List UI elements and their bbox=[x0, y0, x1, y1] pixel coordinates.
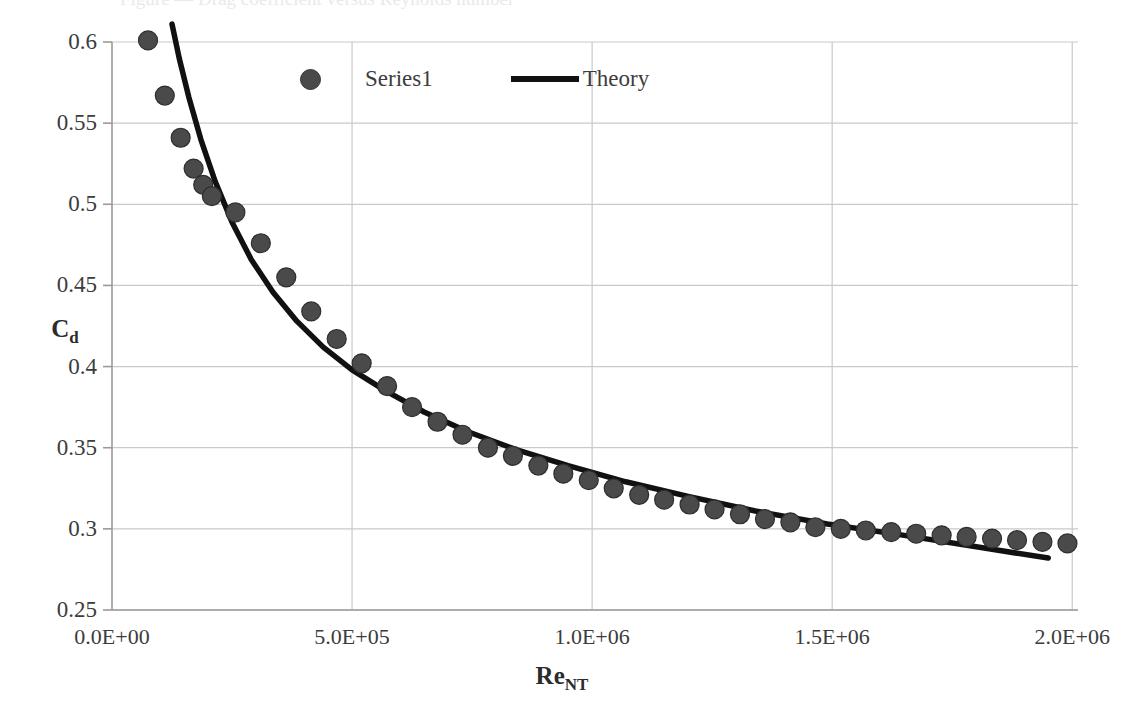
data-point-marker bbox=[155, 86, 174, 105]
data-point-marker bbox=[806, 518, 825, 537]
x-axis-title-subscript: NT bbox=[565, 675, 589, 694]
y-axis-tick-label: 0.3 bbox=[17, 516, 97, 542]
chart-legend: Series1 Theory bbox=[300, 62, 649, 96]
y-axis-title: Cd bbox=[30, 315, 100, 348]
legend-circle-marker-icon bbox=[300, 69, 321, 90]
theory-curve bbox=[172, 24, 1048, 558]
data-point-marker bbox=[831, 519, 850, 538]
data-point-marker bbox=[277, 268, 296, 287]
x-axis-tick-label: 2.0E+06 bbox=[992, 624, 1124, 650]
x-axis-title: ReNT bbox=[0, 662, 1124, 695]
y-axis-title-main: C bbox=[51, 315, 69, 342]
legend-entry-series1: Series1 bbox=[300, 66, 433, 92]
data-point-marker bbox=[226, 203, 245, 222]
data-point-marker bbox=[957, 527, 976, 546]
data-point-marker bbox=[579, 471, 598, 490]
x-axis-title-main: Re bbox=[536, 662, 565, 689]
data-point-marker bbox=[403, 398, 422, 417]
data-point-marker bbox=[983, 529, 1002, 548]
legend-label-series1: Series1 bbox=[365, 66, 433, 92]
data-point-marker bbox=[171, 128, 190, 147]
data-point-marker bbox=[327, 329, 346, 348]
x-axis-tick-label: 5.0E+05 bbox=[272, 624, 432, 650]
y-axis-tick-label: 0.25 bbox=[17, 597, 97, 623]
y-axis-tick-label: 0.4 bbox=[17, 354, 97, 380]
y-axis-tick-label: 0.5 bbox=[17, 191, 97, 217]
data-point-marker bbox=[907, 524, 926, 543]
data-point-marker bbox=[251, 234, 270, 253]
y-axis-tick-label: 0.55 bbox=[17, 110, 97, 136]
data-point-marker bbox=[731, 505, 750, 524]
data-point-marker bbox=[781, 513, 800, 532]
y-axis-tick-label: 0.35 bbox=[17, 435, 97, 461]
data-point-marker bbox=[453, 425, 472, 444]
gridlines bbox=[112, 42, 1078, 610]
data-point-marker bbox=[428, 412, 447, 431]
data-point-marker bbox=[302, 302, 321, 321]
data-point-marker bbox=[1008, 531, 1027, 550]
data-point-marker bbox=[478, 438, 497, 457]
y-axis-tick-label: 0.45 bbox=[17, 272, 97, 298]
data-point-marker bbox=[680, 495, 699, 514]
chart-plot-svg bbox=[0, 0, 1124, 718]
data-point-marker bbox=[755, 510, 774, 529]
data-point-marker bbox=[554, 464, 573, 483]
data-point-marker bbox=[630, 485, 649, 504]
data-point-marker bbox=[932, 526, 951, 545]
data-point-marker bbox=[1033, 532, 1052, 551]
legend-line-marker-icon bbox=[511, 76, 579, 82]
data-point-marker bbox=[352, 354, 371, 373]
data-point-marker bbox=[503, 446, 522, 465]
legend-entry-theory: Theory bbox=[511, 66, 649, 92]
data-point-marker bbox=[202, 187, 221, 206]
data-point-marker bbox=[882, 523, 901, 542]
theory-series-line bbox=[172, 24, 1048, 558]
x-axis-tick-label: 1.0E+06 bbox=[512, 624, 672, 650]
data-point-marker bbox=[705, 500, 724, 519]
data-point-marker bbox=[655, 490, 674, 509]
data-point-marker bbox=[139, 31, 158, 50]
x-axis-tick-label: 0.0E+00 bbox=[32, 624, 192, 650]
y-axis-title-subscript: d bbox=[69, 328, 78, 347]
x-axis-tick-label: 1.5E+06 bbox=[752, 624, 912, 650]
chart-container: Figure — Drag coefficient versus Reynold… bbox=[0, 0, 1124, 718]
data-point-marker bbox=[529, 456, 548, 475]
data-point-marker bbox=[856, 521, 875, 540]
data-point-marker bbox=[378, 377, 397, 396]
data-point-marker bbox=[604, 479, 623, 498]
data-point-marker bbox=[1058, 534, 1077, 553]
legend-label-theory: Theory bbox=[583, 66, 649, 92]
axis-lines bbox=[103, 42, 1078, 610]
y-axis-tick-label: 0.6 bbox=[17, 29, 97, 55]
